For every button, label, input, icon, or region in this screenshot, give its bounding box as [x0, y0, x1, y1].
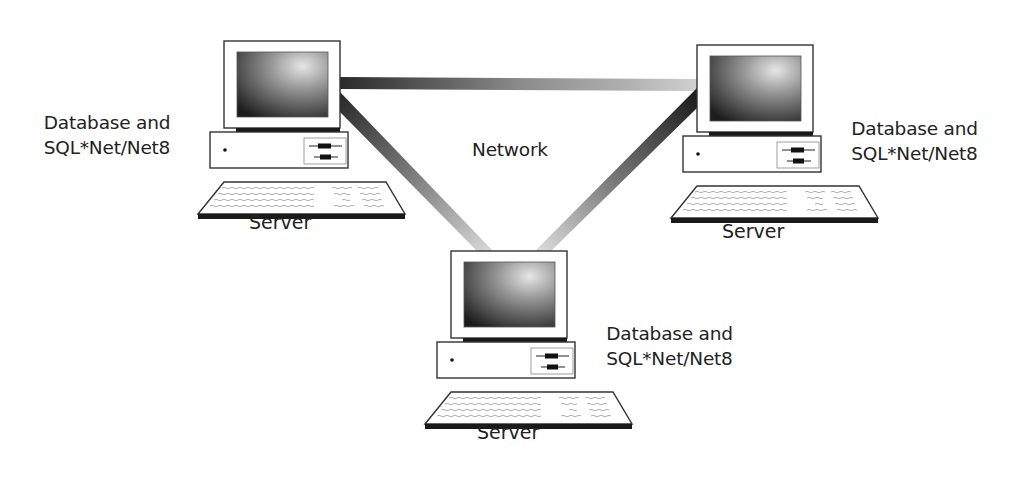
network-diagram — [0, 0, 1030, 486]
node-right-name: Server — [722, 220, 784, 242]
node-left-description: Database and SQL*Net/Net8 — [22, 110, 192, 160]
node-right-description-line-2: SQL*Net/Net8 — [832, 141, 997, 166]
node-bottom-name: Server — [477, 421, 539, 443]
network-label: Network — [472, 137, 548, 162]
node-left-name: Server — [249, 211, 311, 233]
node-right-description-line-1: Database and — [832, 116, 997, 141]
node-left-description-line-1: Database and — [22, 110, 192, 135]
node-bottom-description-line-2: SQL*Net/Net8 — [587, 346, 752, 371]
node-bottom-description-line-1: Database and — [587, 321, 752, 346]
link-left-right — [340, 77, 697, 91]
node-left-description-line-2: SQL*Net/Net8 — [22, 135, 192, 160]
node-bottom-description: Database and SQL*Net/Net8 — [587, 321, 752, 371]
link-right-bottom — [535, 88, 697, 251]
node-right-description: Database and SQL*Net/Net8 — [832, 116, 997, 166]
network-links — [340, 77, 697, 251]
link-left-bottom — [340, 92, 493, 251]
